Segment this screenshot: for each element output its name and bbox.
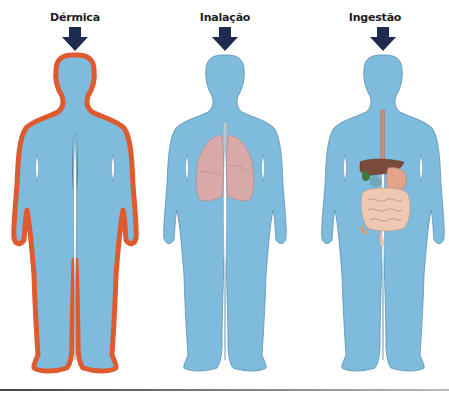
bottom-divider xyxy=(0,389,449,391)
human-silhouette-skin-highlight xyxy=(0,50,150,380)
ingestion-route-panel: Ingestão xyxy=(300,0,449,380)
human-silhouette-lungs xyxy=(150,50,300,380)
dermal-route-panel: Dérmica xyxy=(0,0,150,380)
inhalation-route-panel: Inalação xyxy=(150,0,300,380)
inhalation-label: Inalação xyxy=(150,11,300,24)
human-silhouette-digestive xyxy=(308,50,449,380)
dermal-label: Dérmica xyxy=(0,11,150,24)
ingestion-label: Ingestão xyxy=(300,11,449,24)
